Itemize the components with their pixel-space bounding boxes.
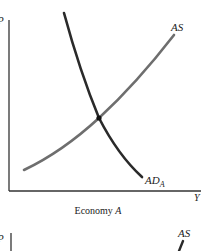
caption-italic: A [114,205,122,216]
panel-b-as-label: AS [177,227,191,239]
panel-b-as-curve [179,241,183,251]
ad-label: ADA [144,174,165,189]
y-axis-label: P [0,14,4,26]
equilibrium-point [96,115,101,120]
caption-prefix: Economy [75,205,116,216]
economy-a-diagram: P AS ADA Y Economy A P AS [0,0,206,251]
caption: Economy A [75,205,123,216]
x-axis-label: Y [194,192,201,203]
ad-label-subscript: A [159,180,165,189]
panel-b-y-axis-label: P [0,232,4,244]
ad-curve [64,13,142,177]
as-label: AS [170,21,184,33]
as-curve [24,35,174,170]
ad-label-main: AD [144,174,160,186]
